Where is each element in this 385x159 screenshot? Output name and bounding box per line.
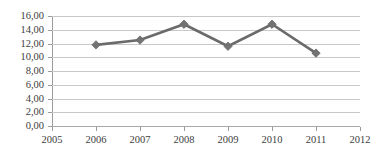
series-line (96, 24, 316, 53)
x-axis-tick (272, 127, 273, 131)
y-axis-tick-label: 10,00 (20, 52, 44, 62)
series-markers (92, 20, 320, 57)
y-axis-tick-label: 14,00 (20, 25, 44, 35)
x-axis-tick (140, 127, 141, 131)
x-axis-tick (184, 127, 185, 131)
data-series-group (52, 16, 360, 126)
x-axis-tick-label: 2011 (306, 134, 327, 145)
plot-area (52, 16, 360, 126)
data-point-marker (224, 42, 232, 50)
data-point-marker (180, 20, 188, 28)
data-point-marker (136, 36, 144, 44)
y-axis-tick-label: 16,00 (20, 11, 44, 21)
x-axis-tick-label: 2007 (130, 134, 151, 145)
x-axis-tick (360, 127, 361, 131)
x-axis-tick-label: 2006 (86, 134, 107, 145)
x-axis-tick (96, 127, 97, 131)
y-axis-tick-label: 4,00 (26, 94, 44, 104)
line-chart: 0,002,004,006,008,0010,0012,0014,0016,00… (0, 0, 385, 159)
x-axis-tick (228, 127, 229, 131)
x-axis-tick (316, 127, 317, 131)
x-axis-tick-label: 2009 (218, 134, 239, 145)
data-point-marker (92, 41, 100, 49)
y-axis-tick-label: 2,00 (26, 107, 44, 117)
x-axis-tick-label: 2010 (262, 134, 283, 145)
x-axis-tick-label: 2012 (350, 134, 371, 145)
x-axis-tick-label: 2005 (42, 134, 63, 145)
x-axis-tick-label: 2008 (174, 134, 195, 145)
y-axis-tick-label: 0,00 (26, 121, 44, 131)
gridline-y (52, 126, 360, 127)
y-axis-tick-label: 8,00 (26, 66, 44, 76)
x-axis-tick (52, 127, 53, 131)
y-axis-tick-label: 12,00 (20, 39, 44, 49)
y-axis-tick-label: 6,00 (26, 80, 44, 90)
